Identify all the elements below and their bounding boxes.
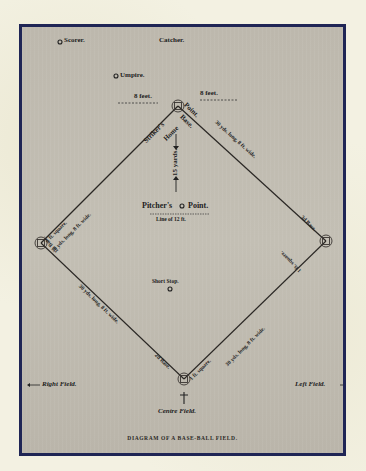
- diagram-plate: Scorer. Catcher. Umpire. 8 feet. 8 feet.…: [19, 24, 346, 456]
- scorer-label: Scorer.: [64, 36, 85, 44]
- centre-field-label: Centre Field.: [158, 407, 196, 415]
- pitcher-label: Pitcher's: [142, 201, 172, 210]
- fifteen-yards-label: 15 yards.: [171, 149, 179, 176]
- right-feet-label: 8 feet.: [200, 89, 218, 97]
- short-stop-label: Short Stop.: [152, 278, 179, 284]
- pitcher-point-label: Point.: [188, 201, 208, 210]
- umpire-label: Umpire.: [120, 71, 145, 79]
- right-field-label: Right Field.: [42, 380, 77, 388]
- diagram-caption: DIAGRAM OF A BASE-BALL FIELD.: [22, 435, 343, 441]
- catcher-label: Catcher.: [159, 36, 184, 44]
- line-of-label: Line of 12 ft.: [156, 216, 186, 222]
- field-lines: [19, 24, 346, 456]
- left-field-label: Left Field.: [295, 380, 325, 388]
- left-feet-label: 8 feet.: [134, 92, 152, 100]
